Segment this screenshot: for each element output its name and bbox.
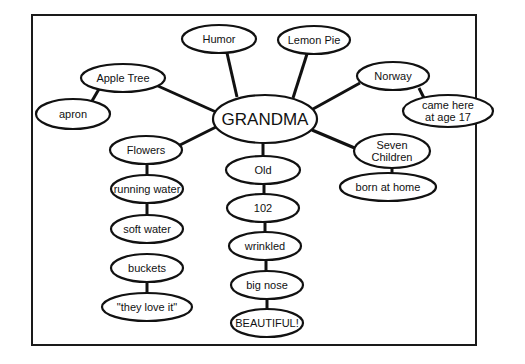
node-apron: apron xyxy=(36,99,110,129)
node-label: Seven xyxy=(376,139,407,151)
node-label: GRANDMA xyxy=(222,110,310,129)
node-norway: Norway xyxy=(357,62,429,90)
edge-grandma-flowers xyxy=(180,127,216,145)
node-soft-water: soft water xyxy=(111,215,183,243)
node-label: Children xyxy=(372,151,413,163)
node-102: 102 xyxy=(227,194,299,222)
node-label: BEAUTIFUL! xyxy=(235,317,299,329)
node-label: at age 17 xyxy=(425,111,471,123)
node-label: Humor xyxy=(202,33,235,45)
edge-grandma-norway xyxy=(313,83,360,109)
node-label: born at home xyxy=(356,181,421,193)
node-label: Apple Tree xyxy=(96,72,149,84)
edge-grandma-humor xyxy=(227,53,237,97)
node-grandma: GRANDMA xyxy=(213,95,317,143)
node-label: 102 xyxy=(254,202,272,214)
node-label: buckets xyxy=(128,262,166,274)
node-label: soft water xyxy=(123,223,171,235)
node-label: running water xyxy=(114,183,181,195)
node-label: Old xyxy=(254,164,271,176)
node-running-water: running water xyxy=(111,175,183,203)
node-beautiful: BEAUTIFUL! xyxy=(231,309,303,337)
node-label: Norway xyxy=(374,70,412,82)
edge-grandma-apple-tree xyxy=(158,86,216,112)
node-seven-children: SevenChildren xyxy=(354,134,430,168)
node-label: came here xyxy=(422,99,474,111)
node-buckets: buckets xyxy=(111,254,183,282)
edge-grandma-seven-children xyxy=(312,130,357,149)
node-lemon-pie: Lemon Pie xyxy=(278,26,350,54)
node-label: wrinkled xyxy=(244,240,285,252)
concept-map-canvas: HumorLemon PieApple TreeapronNorwaycame … xyxy=(0,0,525,364)
node-label: apron xyxy=(59,108,87,120)
edge-grandma-lemon-pie xyxy=(293,54,307,98)
node-apple-tree: Apple Tree xyxy=(81,64,165,92)
concept-nodes: HumorLemon PieApple TreeapronNorwaycame … xyxy=(36,25,493,337)
node-came-here: came hereat age 17 xyxy=(403,95,493,127)
node-old: Old xyxy=(226,156,300,184)
node-they-love-it: "they love it" xyxy=(102,293,192,321)
node-wrinkled: wrinkled xyxy=(229,232,301,260)
node-big-nose: big nose xyxy=(231,271,303,299)
node-flowers: Flowers xyxy=(110,136,182,164)
node-label: "they love it" xyxy=(117,301,177,313)
node-humor: Humor xyxy=(182,25,256,53)
node-label: Flowers xyxy=(127,144,166,156)
node-born-at-home: born at home xyxy=(340,173,436,201)
node-label: big nose xyxy=(246,279,288,291)
node-label: Lemon Pie xyxy=(288,34,341,46)
edge-apple-tree-apron xyxy=(92,89,99,101)
